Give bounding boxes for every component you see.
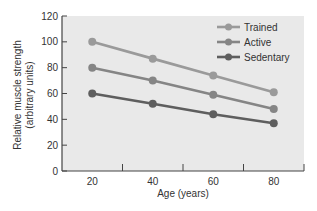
x-tick-label: 20 [87, 176, 99, 187]
data-point [270, 105, 278, 113]
y-tick-label: 80 [47, 62, 59, 73]
y-axis-subtitle: (arbitrary units) [24, 61, 35, 128]
y-tick-label: 0 [52, 166, 58, 177]
legend-label: Active [244, 37, 272, 48]
data-point [88, 38, 96, 46]
x-tick-label: 40 [147, 176, 159, 187]
data-point [149, 100, 157, 108]
y-tick-label: 100 [41, 36, 58, 47]
data-point [88, 90, 96, 98]
y-tick-label: 120 [41, 11, 58, 22]
y-tick-label: 40 [47, 114, 59, 125]
x-tick-label: 60 [208, 176, 220, 187]
y-tick-label: 60 [47, 88, 59, 99]
data-point [209, 71, 217, 79]
data-point [270, 119, 278, 127]
y-axis-title: Relative muscle strength [12, 40, 23, 150]
data-point [270, 88, 278, 96]
data-point [149, 55, 157, 63]
data-point [149, 77, 157, 85]
data-point [88, 64, 96, 72]
data-point [209, 91, 217, 99]
x-axis-title: Age (years) [157, 188, 209, 199]
x-tick-label: 80 [268, 176, 280, 187]
line-chart: 020406080100120 20406080 TrainedActiveSe… [0, 0, 317, 211]
y-tick-label: 20 [47, 140, 59, 151]
data-point [209, 110, 217, 118]
legend-label: Trained [244, 22, 278, 33]
legend-label: Sedentary [244, 52, 290, 63]
